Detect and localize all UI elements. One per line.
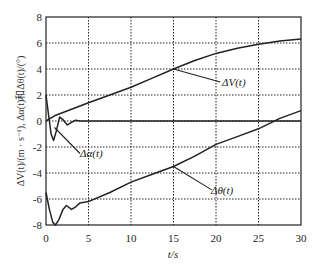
x-tick: 10: [126, 232, 138, 244]
y-tick: 6: [37, 37, 43, 49]
y-tick: 4: [37, 63, 43, 75]
x-axis-ticks: 0 5 10 15 20 25 30: [43, 232, 307, 244]
y-axis-label: ΔV(t)/(m · s⁻¹), Δα(t)和Δθ(t)/(°): [15, 56, 27, 187]
label-delta-v: ΔV(t): [221, 76, 246, 89]
x-tick: 25: [253, 232, 265, 244]
x-tick: 5: [86, 232, 92, 244]
leader-delta-alpha: [55, 128, 81, 154]
y-tick: -4: [33, 167, 43, 179]
y-tick: 8: [37, 11, 43, 23]
x-axis-label: t/s: [168, 248, 178, 260]
line-chart: 0 5 10 15 20 25 30 8 6 4 2 0 -2 -4 -6 -8…: [0, 0, 315, 266]
annotation-leaders: [55, 69, 221, 190]
x-tick: 30: [296, 232, 308, 244]
leader-delta-theta: [174, 167, 212, 190]
x-tick: 15: [168, 232, 180, 244]
label-delta-theta: Δθ(t): [210, 184, 234, 197]
y-axis-ticks: 8 6 4 2 0 -2 -4 -6 -8: [33, 11, 43, 231]
y-tick: -2: [33, 141, 42, 153]
y-tick: -6: [33, 193, 43, 205]
x-tick: 0: [43, 232, 49, 244]
x-tick: 20: [211, 232, 223, 244]
y-tick: -8: [33, 219, 43, 231]
leader-delta-v: [174, 69, 221, 82]
y-tick: 2: [37, 89, 43, 101]
label-delta-alpha: Δα(t): [79, 147, 103, 160]
y-tick: 0: [37, 115, 43, 127]
